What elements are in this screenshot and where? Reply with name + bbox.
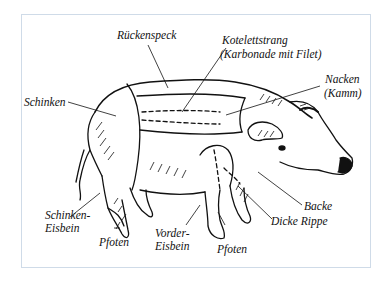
label-pfoten-hind: Pfoten — [99, 236, 129, 249]
label-kotelettstrang: Kotelettstrang — [222, 34, 288, 47]
label-karbonade-mit-filet: (Karbonade mit Filet) — [220, 48, 322, 61]
label-schinken: Schinken — [24, 96, 66, 109]
label-backe: Backe — [304, 200, 332, 213]
label-nacken: Nacken — [325, 73, 359, 86]
label-schinken-eisbein-line2: Eisbein — [45, 222, 80, 235]
label-dicke-rippe: Dicke Rippe — [271, 215, 328, 228]
label-schinken-eisbein-line1: Schinken- — [45, 209, 90, 222]
label-vorder-eisbein-line2: Eisbein — [155, 240, 190, 253]
label-rueckenspeck: Rückenspeck — [117, 29, 176, 42]
pig-illustration — [0, 0, 388, 282]
label-kamm: (Kamm) — [324, 87, 362, 100]
label-vorder-eisbein-line1: Vorder- — [155, 227, 189, 240]
label-pfoten-front: Pfoten — [217, 243, 247, 256]
